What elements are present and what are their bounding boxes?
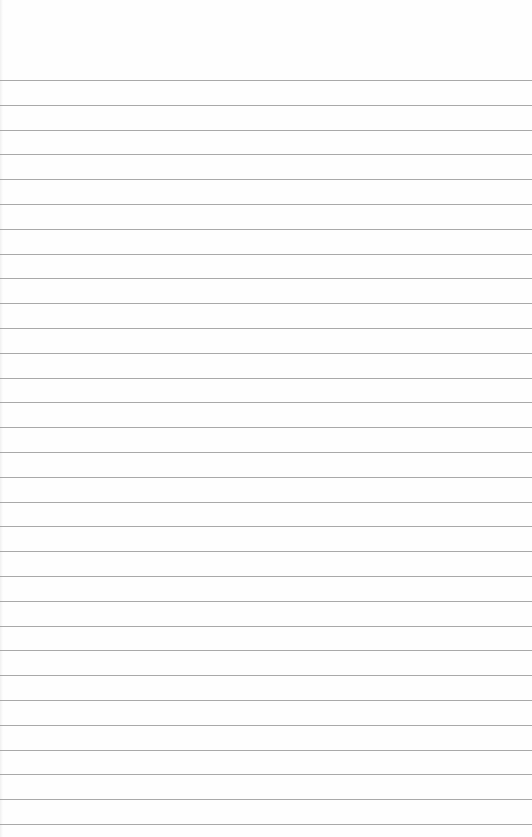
ruled-line — [0, 80, 532, 81]
ruled-line — [0, 799, 532, 800]
ruled-line — [0, 328, 532, 329]
ruled-line — [0, 502, 532, 503]
ruled-paper-sheet — [0, 0, 532, 837]
ruled-line — [0, 452, 532, 453]
ruled-line — [0, 725, 532, 726]
ruled-line — [0, 105, 532, 106]
ruled-line — [0, 477, 532, 478]
ruled-line — [0, 130, 532, 131]
ruled-line — [0, 750, 532, 751]
ruled-line — [0, 204, 532, 205]
ruled-line — [0, 303, 532, 304]
ruled-line — [0, 774, 532, 775]
ruled-line — [0, 675, 532, 676]
ruled-line — [0, 229, 532, 230]
ruled-line — [0, 650, 532, 651]
ruled-line — [0, 700, 532, 701]
ruled-line — [0, 601, 532, 602]
ruled-line — [0, 551, 532, 552]
ruled-line — [0, 154, 532, 155]
ruled-line — [0, 626, 532, 627]
ruled-line — [0, 526, 532, 527]
ruled-line — [0, 824, 532, 825]
ruled-line — [0, 402, 532, 403]
ruled-line — [0, 427, 532, 428]
ruled-line — [0, 378, 532, 379]
ruled-line — [0, 254, 532, 255]
ruled-line — [0, 353, 532, 354]
ruled-line — [0, 576, 532, 577]
paper-left-edge — [0, 0, 3, 837]
ruled-line — [0, 179, 532, 180]
ruled-line — [0, 278, 532, 279]
